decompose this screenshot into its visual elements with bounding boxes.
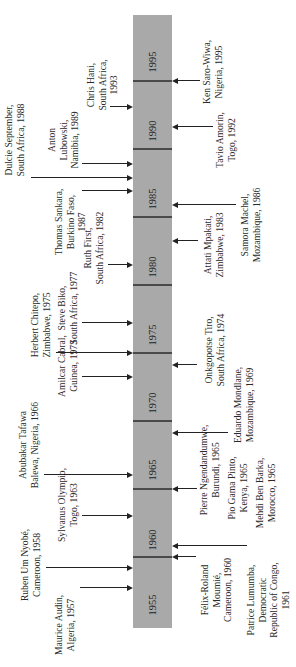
event-arrow <box>46 567 128 568</box>
event-label-line: Algeria, 1957 <box>64 595 76 655</box>
event-label: Maurice Audin,Algeria, 1957 <box>53 595 76 655</box>
event-label: Herbert Chitepo,Zimbabwe, 1975 <box>29 292 52 357</box>
tick-1975 <box>133 352 172 354</box>
event-label-line: Pio Gama Pinto, <box>226 456 238 519</box>
arrowhead-icon <box>127 262 133 268</box>
event-arrow <box>177 204 236 205</box>
event-label-line: Herbert Chitepo, <box>29 292 41 357</box>
year-label-1955: 1955 <box>147 595 158 616</box>
event-label: Sylvanus Olympio,Togo, 1963 <box>56 468 79 542</box>
event-label-line: Pierre Ngendandumwe, <box>198 425 210 516</box>
event-label-line: 1993 <box>108 59 120 110</box>
event-label-line: Togo, 1992 <box>225 112 237 168</box>
event-label: Attati Mpakati,Zimbabwe, 1983 <box>202 212 225 277</box>
event-label: Félix-RolandMoumié,Cameroon, 1960 <box>199 558 234 622</box>
event-label-line: Patrice Lumumba, <box>245 562 257 637</box>
year-label-1990: 1990 <box>147 121 158 142</box>
arrowhead-icon <box>172 543 178 549</box>
event-label-line: Mehdi Ben Barka, <box>254 458 266 529</box>
event-arrow <box>82 322 128 323</box>
timeline-diagram: 195519601965197019751980198519901995Maur… <box>0 0 296 667</box>
event-label-line: Burundi, 1965 <box>209 425 221 516</box>
event-label-line: Samora Machel, <box>239 188 251 263</box>
event-label: Chris Hani,South Africa,1993 <box>85 59 120 110</box>
tick-1995 <box>133 80 172 82</box>
arrowhead-icon <box>127 161 133 167</box>
arrowhead-icon <box>127 472 133 478</box>
event-label-line: Félix-Roland <box>199 558 211 622</box>
event-label: Patrice Lumumba,DemocraticRepublic of Co… <box>245 562 291 637</box>
event-label-line: Morocco, 1965 <box>265 458 277 529</box>
event-label: Tavio Amorin,Togo, 1992 <box>214 112 237 168</box>
event-arrow <box>177 488 197 489</box>
event-label-line: South Africa, 1988 <box>14 104 26 177</box>
event-label-line: Dulcie September, <box>3 104 15 177</box>
tick-1960 <box>133 556 172 558</box>
event-label-line: Anton <box>46 111 58 168</box>
arrowhead-icon <box>172 554 178 560</box>
event-label-line: 1987 <box>76 189 88 256</box>
event-label-line: Mozambique, 1986 <box>250 188 262 263</box>
event-label-line: Balewa, Nigeria, 1966 <box>28 402 40 488</box>
event-arrow <box>177 545 247 546</box>
event-label-line: Steve Biko, <box>56 272 68 345</box>
arrowhead-icon <box>127 188 133 194</box>
arrowhead-icon <box>172 238 178 244</box>
year-label-1985: 1985 <box>147 189 158 210</box>
event-label-line: Zimbabwe, 1983 <box>213 212 225 277</box>
event-label-line: 1961 <box>280 562 292 637</box>
arrowhead-icon <box>172 124 178 130</box>
event-label-line: South Africa, 1982 <box>93 212 105 285</box>
event-label-line: Namibia, 1989 <box>69 111 81 168</box>
event-arrow <box>177 240 198 241</box>
event-arrow <box>82 515 128 516</box>
event-arrow <box>31 177 128 178</box>
event-label: Eduardo Mondlane,Mozambique, 1969 <box>232 367 255 443</box>
event-label-line: Abubakar Tafawa <box>17 402 29 488</box>
tick-1965 <box>133 488 172 490</box>
event-arrow <box>177 126 213 127</box>
event-label-line: South Africa, <box>96 59 108 110</box>
tick-1990 <box>133 148 172 150</box>
event-label: AntonLubowski,Namibia, 1989 <box>46 111 81 168</box>
event-label-line: Ken Saro-Wiwa, <box>201 40 213 104</box>
event-arrow <box>177 432 228 433</box>
event-label-line: Kenya, 1965 <box>237 456 249 519</box>
event-label: Pio Gama Pinto,Kenya, 1965 <box>226 456 249 519</box>
year-label-1980: 1980 <box>147 257 158 278</box>
event-arrow <box>82 376 128 377</box>
arrowhead-icon <box>172 486 178 492</box>
event-label-line: Eduardo Mondlane, <box>232 367 244 443</box>
tick-1970 <box>133 420 172 422</box>
event-label-line: Moumié, <box>210 558 222 622</box>
arrowhead-icon <box>172 78 178 84</box>
event-label: Ruben Um Nyobé,Cameroon, 1958 <box>19 529 42 601</box>
event-arrow <box>80 587 128 588</box>
event-label-line: Cameroon, 1958 <box>30 529 42 601</box>
event-label-line: Chris Hani, <box>85 59 97 110</box>
event-label-line: Mozambique, 1969 <box>243 367 255 443</box>
event-arrow <box>82 163 128 164</box>
event-arrow <box>108 264 128 265</box>
event-arrow <box>44 474 128 475</box>
event-label-line: Republic of Congo, <box>268 562 280 637</box>
event-label-line: South Africa, 1977 <box>67 272 79 345</box>
arrowhead-icon <box>172 430 178 436</box>
event-label-line: Zimbabwe, 1975 <box>40 292 52 357</box>
event-label: Thomas Sankara,Burkino Faso,1987 <box>53 189 88 256</box>
arrowhead-icon <box>127 320 133 326</box>
arrowhead-icon <box>172 362 178 368</box>
event-label: Ken Saro-Wiwa,Nigeria, 1995 <box>201 40 224 104</box>
tick-1985 <box>133 216 172 218</box>
event-arrow <box>177 364 197 365</box>
event-label: Onkgopotse Tiro,South Africa, 1974 <box>203 314 226 387</box>
event-label-line: Burkino Faso, <box>64 189 76 256</box>
event-label: Steve Biko,South Africa, 1977 <box>56 272 79 345</box>
event-label-line: Cameroon, 1960 <box>222 558 234 622</box>
arrowhead-icon <box>127 513 133 519</box>
arrowhead-icon <box>127 585 133 591</box>
event-label-line: Tavio Amorin, <box>214 112 226 168</box>
event-arrow <box>56 352 128 353</box>
event-label-line: Democratic <box>257 562 269 637</box>
event-label-line: Ruben Um Nyobé, <box>19 529 31 601</box>
